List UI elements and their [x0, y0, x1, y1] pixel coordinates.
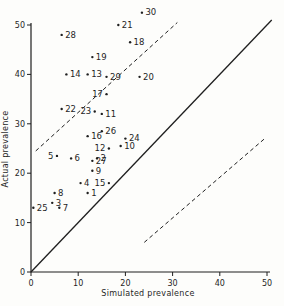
x-tick-label: 50: [262, 279, 272, 288]
data-point: [53, 192, 55, 194]
data-point: [101, 113, 103, 115]
data-point: [138, 76, 140, 78]
data-point-label: 13: [91, 69, 102, 79]
y-tick-label: 0: [20, 268, 25, 277]
data-point: [101, 130, 103, 132]
data-point-label: 6: [75, 153, 80, 163]
y-tick-label: 30: [15, 120, 25, 129]
y-tick-label: 10: [15, 219, 25, 228]
data-point: [119, 145, 121, 147]
data-point: [105, 76, 107, 78]
data-point-label: 4: [84, 178, 89, 188]
data-point-label: 21: [122, 20, 133, 30]
data-point: [65, 73, 67, 75]
data-point-label: 30: [145, 7, 156, 17]
data-point-label: 9: [96, 166, 101, 176]
y-tick-label: 50: [15, 21, 25, 30]
data-point: [60, 108, 62, 110]
x-axis-label: Simulated prevalence: [101, 289, 194, 298]
data-point-label: 24: [129, 133, 140, 143]
x-tick-label: 40: [215, 279, 225, 288]
data-point: [117, 24, 119, 26]
x-tick-label: 0: [28, 279, 33, 288]
data-point-label: 26: [105, 126, 116, 136]
data-point-label: 14: [70, 69, 81, 79]
data-point-label: 17: [92, 89, 103, 99]
reference-lines-group: [31, 20, 272, 272]
data-point-label: 19: [96, 52, 107, 62]
data-point-label: 18: [134, 37, 145, 47]
data-point-label: 20: [143, 72, 154, 82]
data-point-label: 15: [95, 178, 106, 188]
scatter-plot-canvas: 0102030405001020304050 12345678910111213…: [0, 0, 284, 306]
y-axis-label: Actual prevalence: [1, 111, 10, 188]
data-point-label: 23: [80, 106, 91, 116]
data-point: [91, 56, 93, 58]
x-tick-label: 10: [73, 279, 83, 288]
data-point-label: 25: [37, 203, 48, 213]
data-point: [56, 155, 58, 157]
data-point: [129, 41, 131, 43]
data-point-label: 5: [48, 151, 53, 161]
data-point-label: 8: [58, 188, 63, 198]
data-point-label: 28: [65, 30, 76, 40]
data-point: [91, 160, 93, 162]
lower-band-dashed-line: [144, 139, 264, 243]
data-point: [86, 73, 88, 75]
data-point: [51, 202, 53, 204]
data-point: [86, 135, 88, 137]
data-point: [91, 170, 93, 172]
data-point-label: 29: [110, 72, 121, 82]
data-point-label: 1: [91, 188, 96, 198]
data-point-label: 27: [96, 156, 107, 166]
data-point: [108, 182, 110, 184]
data-point: [124, 137, 126, 139]
data-point-label: 3: [56, 198, 61, 208]
x-tick-label: 20: [120, 279, 130, 288]
data-point-label: 12: [95, 143, 106, 153]
data-point: [70, 157, 72, 159]
data-points-group: 1234567891011121314151617181920212223242…: [32, 7, 156, 212]
data-point: [58, 207, 60, 209]
data-point: [141, 11, 143, 13]
identity-line: [31, 20, 272, 272]
data-point-label: 22: [65, 104, 76, 114]
data-point: [108, 147, 110, 149]
data-point: [79, 182, 81, 184]
x-tick-label: 30: [168, 279, 178, 288]
data-point: [105, 93, 107, 95]
data-point-label: 7: [63, 203, 68, 213]
y-tick-label: 20: [15, 169, 25, 178]
data-point: [60, 34, 62, 36]
data-point: [86, 192, 88, 194]
data-point-label: 16: [91, 131, 102, 141]
data-point-label: 11: [105, 109, 116, 119]
y-tick-label: 40: [15, 70, 25, 79]
scatter-figure: 0102030405001020304050 12345678910111213…: [0, 0, 284, 306]
data-point: [32, 207, 34, 209]
data-point: [94, 110, 96, 112]
